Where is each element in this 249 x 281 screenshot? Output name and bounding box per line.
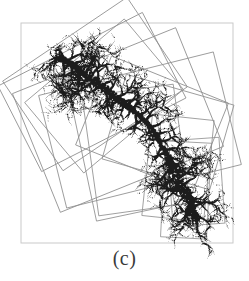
fractal-figure-svg <box>0 0 249 281</box>
figure-caption: (c) <box>0 245 249 271</box>
figure-container: (c) <box>0 0 249 281</box>
figure-background <box>0 0 249 281</box>
